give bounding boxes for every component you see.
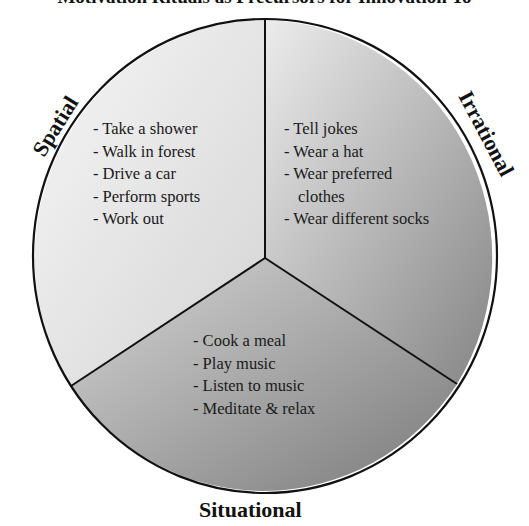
list-item: - Cook a meal: [193, 330, 315, 353]
list-item-continuation: clothes: [284, 186, 429, 209]
list-item: - Take a shower: [93, 118, 200, 141]
ritual-pie-diagram: Spatial Irrational Situational: [0, 0, 529, 526]
list-item: - Drive a car: [93, 163, 200, 186]
list-item: - Tell jokes: [284, 118, 429, 141]
spatial-items: - Take a shower - Walk in forest - Drive…: [93, 118, 200, 231]
situational-items: - Cook a meal - Play music - Listen to m…: [193, 330, 315, 420]
irrational-items: - Tell jokes - Wear a hat - Wear preferr…: [284, 118, 429, 231]
list-item: - Work out: [93, 208, 200, 231]
list-item: - Perform sports: [93, 186, 200, 209]
list-item: - Wear preferred: [284, 163, 429, 186]
list-item: - Wear a hat: [284, 141, 429, 164]
list-item: - Listen to music: [193, 375, 315, 398]
list-item: - Play music: [193, 353, 315, 376]
list-item: - Meditate & relax: [193, 398, 315, 421]
list-item: - Walk in forest: [93, 141, 200, 164]
label-situational: Situational: [199, 497, 302, 522]
list-item: - Wear different socks: [284, 208, 429, 231]
